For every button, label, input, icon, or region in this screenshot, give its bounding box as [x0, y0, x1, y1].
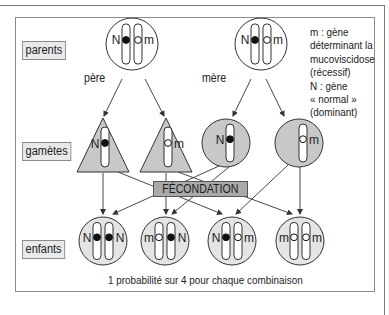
arrow-father-to-gamete-1	[104, 79, 122, 116]
legend: m : gène déterminant la mucoviscidose (r…	[310, 26, 375, 120]
chromosome-rod	[101, 127, 109, 167]
allele-n-dot	[102, 140, 109, 147]
shapes-layer: NmNmNmNmNNmNNmmm	[77, 18, 324, 265]
allele-label: m	[309, 133, 319, 147]
fecondation-label: FÉCONDATION	[162, 182, 238, 197]
allele-m-dot	[264, 37, 271, 44]
chromosome-rod	[251, 24, 259, 64]
allele-label: m	[279, 231, 289, 245]
allele-n-dot	[252, 37, 259, 44]
allele-label: N	[241, 33, 250, 47]
chromosome-rod	[122, 24, 130, 64]
allele-label: N	[178, 231, 187, 245]
arrow-mother-to-gamete-4	[266, 79, 284, 116]
child-cell-1: NN	[79, 217, 127, 265]
legend-line: N : gène	[310, 80, 375, 93]
legend-line: m : gène	[310, 26, 375, 39]
arrow-mother-to-gamete-3	[233, 79, 251, 116]
footer-caption: 1 probabilité sur 4 pour chaque combinai…	[108, 274, 303, 286]
allele-n-dot	[123, 37, 130, 44]
fecondation-box: FÉCONDATION	[153, 181, 248, 197]
allele-label: m	[273, 33, 283, 47]
allele-n-dot	[227, 136, 234, 143]
allele-m-dot	[235, 234, 242, 241]
allele-n-dot	[168, 234, 175, 241]
allele-n-dot	[223, 234, 230, 241]
allele-label: m	[312, 231, 322, 245]
chromosome-rod	[263, 24, 271, 64]
legend-line: déterminant la	[310, 39, 375, 52]
allele-label: N	[116, 231, 125, 245]
allele-m-dot	[303, 234, 310, 241]
chromosome-rod	[164, 127, 172, 167]
allele-label: m	[174, 137, 184, 151]
allele-label: m	[244, 231, 254, 245]
gamete-3: N	[202, 119, 250, 167]
allele-m-dot	[291, 234, 298, 241]
child-cell-4: mm	[276, 217, 324, 265]
chromosome-rod	[134, 24, 142, 64]
allele-m-dot	[165, 140, 172, 147]
gamete-4: m	[275, 119, 323, 167]
child-cell-2: mN	[141, 217, 189, 265]
mother-label: mère	[202, 71, 226, 85]
allele-label: m	[144, 33, 154, 47]
row-label-gametes: gamètes	[22, 142, 71, 161]
row-label-enfants: enfants	[22, 240, 65, 259]
allele-n-dot	[106, 234, 113, 241]
father-label: père	[84, 71, 105, 85]
legend-line: « normal »	[310, 93, 375, 106]
gamete-2: m	[140, 118, 192, 172]
allele-label: N	[112, 33, 121, 47]
legend-line: (récessif)	[310, 66, 375, 79]
legend-line: mucoviscidose	[310, 53, 375, 66]
allele-label: N	[91, 137, 100, 151]
legend-line: (dominant)	[310, 106, 375, 119]
allele-m-dot	[135, 37, 142, 44]
allele-label: N	[83, 231, 92, 245]
child-cell-3: Nm	[208, 217, 256, 265]
allele-n-dot	[94, 234, 101, 241]
allele-label: N	[216, 133, 225, 147]
arrow-father-to-gamete-2	[145, 79, 164, 116]
allele-label: N	[212, 231, 221, 245]
mother-cell: Nm	[235, 18, 287, 70]
allele-m-dot	[156, 234, 163, 241]
allele-label: m	[144, 231, 154, 245]
father-cell: Nm	[106, 18, 158, 70]
allele-m-dot	[300, 136, 307, 143]
row-label-parents: parents	[22, 41, 66, 60]
gamete-1: N	[77, 118, 129, 172]
